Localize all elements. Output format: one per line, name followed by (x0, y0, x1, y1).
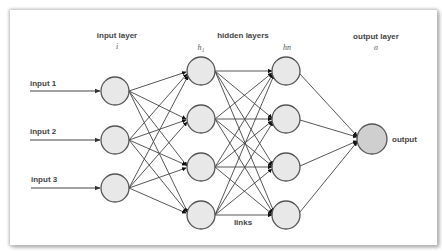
input-3-label: input 3 (31, 175, 58, 184)
links-label: links (234, 218, 253, 227)
hidden-last-symbol: hn (283, 43, 291, 52)
output-layer-symbol: σ (374, 43, 379, 52)
output-node (357, 124, 387, 154)
output-label: output (392, 135, 417, 144)
hidden1-node-3 (187, 153, 215, 181)
input-layer-symbol: i (116, 42, 118, 51)
links-hidden-to-output (300, 74, 357, 212)
hidden1-node-2 (187, 105, 215, 133)
hidden-layers-title: hidden layers (217, 31, 269, 40)
input-1-label: input 1 (30, 79, 57, 88)
input-node-2 (101, 126, 129, 154)
input-node-3 (101, 174, 129, 202)
hidden-first-symbol: h₁ (198, 43, 205, 52)
hiddenn-node-4 (272, 201, 300, 229)
links-hidden-to-hidden (215, 71, 274, 215)
output-layer-title: output layer (353, 32, 399, 41)
input-layer-title: input layer (97, 31, 137, 40)
links-input-to-hidden (129, 72, 188, 213)
hidden1-node-1 (187, 57, 215, 85)
hidden1-node-4 (187, 201, 215, 229)
hiddenn-node-3 (272, 153, 300, 181)
neural-network-diagram: input layer i hidden layers h₁ hn output… (0, 0, 442, 251)
hiddenn-node-1 (272, 57, 300, 85)
input-2-label: input 2 (30, 127, 57, 136)
hiddenn-node-2 (272, 105, 300, 133)
input-arrows (30, 91, 100, 188)
input-node-1 (101, 77, 129, 105)
